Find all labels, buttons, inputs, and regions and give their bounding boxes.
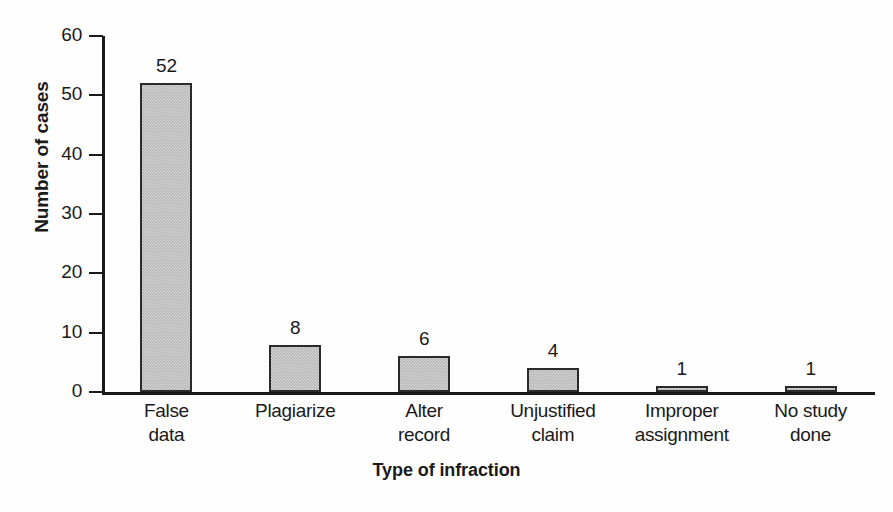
category-label-line: done — [731, 423, 891, 447]
bar — [140, 83, 192, 392]
bar-value-label: 1 — [771, 358, 851, 380]
category-label-line: Improper — [645, 400, 719, 421]
bar — [656, 386, 708, 392]
bar-value-label: 6 — [384, 328, 464, 350]
category-label-line: Alter — [405, 400, 443, 421]
x-axis-category-label: No studydone — [731, 399, 891, 447]
category-label-line: Unjustified — [510, 400, 595, 421]
bar — [785, 386, 837, 392]
bar-value-label: 52 — [126, 55, 206, 77]
bar — [527, 368, 579, 392]
bar-value-label: 4 — [513, 340, 593, 362]
bar-value-label: 1 — [642, 358, 722, 380]
bar-chart: Number of cases 0102030405060 5286411 Fa… — [0, 0, 893, 512]
bar — [398, 356, 450, 392]
category-label-line: data — [86, 423, 246, 447]
x-axis-title: Type of infraction — [0, 460, 893, 481]
bar — [269, 345, 321, 392]
bar-value-label: 8 — [255, 317, 335, 339]
category-label-line: No study — [774, 400, 847, 421]
category-label-line: False — [144, 400, 189, 421]
category-label-line: Plagiarize — [255, 400, 335, 421]
